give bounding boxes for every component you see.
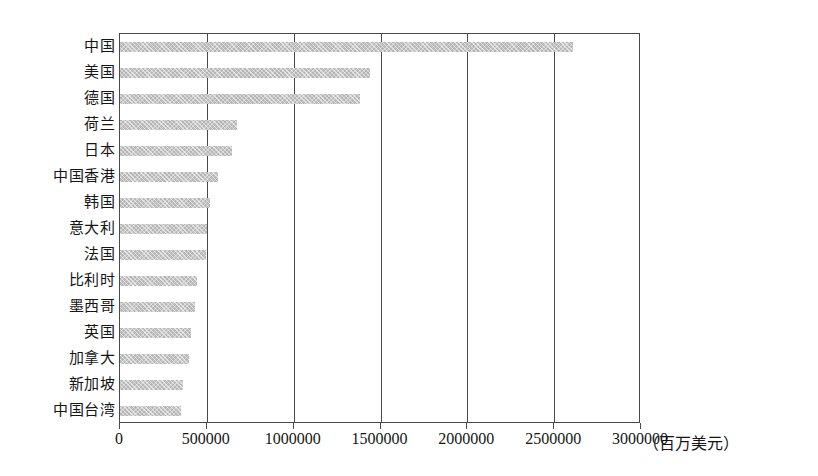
category-label: 英国	[0, 319, 115, 345]
tick-label: 1500000	[352, 430, 408, 448]
bar	[120, 172, 218, 182]
plot-area	[119, 33, 640, 423]
bar	[120, 328, 191, 338]
tick-mark	[553, 423, 554, 429]
tick-mark	[466, 423, 467, 429]
category-label: 墨西哥	[0, 293, 115, 319]
category-label: 美国	[0, 59, 115, 85]
bar	[120, 146, 232, 156]
bar	[120, 380, 183, 390]
axis-unit-label: （百万美元）	[643, 430, 739, 454]
tick-mark	[640, 423, 641, 429]
bar-row	[120, 190, 639, 216]
bar	[120, 406, 181, 416]
tick-label: 500000	[182, 430, 230, 448]
category-label: 加拿大	[0, 345, 115, 371]
bar-row	[120, 60, 639, 86]
bar	[120, 120, 237, 130]
category-label: 荷兰	[0, 111, 115, 137]
bar	[120, 68, 370, 78]
category-label: 中国台湾	[0, 397, 115, 423]
category-label: 法国	[0, 241, 115, 267]
tick-mark	[380, 423, 381, 429]
tick-mark	[206, 423, 207, 429]
bar-row	[120, 268, 639, 294]
category-label: 意大利	[0, 215, 115, 241]
bar-series	[120, 34, 639, 422]
bar-row	[120, 138, 639, 164]
bar	[120, 224, 207, 234]
bar-row	[120, 372, 639, 398]
tick-label: 2500000	[525, 430, 581, 448]
category-label: 德国	[0, 85, 115, 111]
tick-mark	[119, 423, 120, 429]
category-label: 中国香港	[0, 163, 115, 189]
bar	[120, 198, 210, 208]
category-label: 新加坡	[0, 371, 115, 397]
tick-label: 1000000	[265, 430, 321, 448]
tick-mark	[293, 423, 294, 429]
bar-row	[120, 86, 639, 112]
bar	[120, 42, 573, 52]
category-label: 韩国	[0, 189, 115, 215]
category-axis-labels: 中国美国德国荷兰日本中国香港韩国意大利法国比利时墨西哥英国加拿大新加坡中国台湾	[0, 33, 115, 423]
category-label: 中国	[0, 33, 115, 59]
bar-row	[120, 112, 639, 138]
category-label: 比利时	[0, 267, 115, 293]
bar-row	[120, 242, 639, 268]
bar-row	[120, 164, 639, 190]
bar-row	[120, 34, 639, 60]
bar-row	[120, 346, 639, 372]
bar-row	[120, 294, 639, 320]
tick-label: 2000000	[438, 430, 494, 448]
bar-row	[120, 216, 639, 242]
bar	[120, 276, 197, 286]
category-label: 日本	[0, 137, 115, 163]
tick-label: 0	[115, 430, 123, 448]
bar-row	[120, 398, 639, 424]
bar-row	[120, 320, 639, 346]
bar-chart: 中国美国德国荷兰日本中国香港韩国意大利法国比利时墨西哥英国加拿大新加坡中国台湾 …	[0, 0, 818, 476]
bar	[120, 302, 195, 312]
bar	[120, 354, 189, 364]
bar	[120, 94, 360, 104]
bar	[120, 250, 206, 260]
